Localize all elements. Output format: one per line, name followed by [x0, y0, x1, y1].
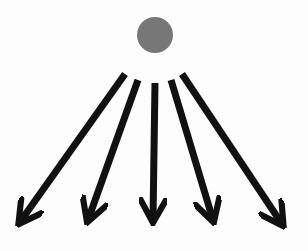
arrow-1 [20, 74, 125, 222]
diagram [0, 0, 308, 251]
arrows-group [20, 74, 282, 224]
arrow-5 [182, 74, 282, 224]
light-source-circle [137, 17, 173, 53]
arrow-3 [153, 83, 155, 220]
ray-diagram [0, 0, 308, 251]
arrow-2 [88, 80, 138, 220]
arrow-4 [171, 80, 213, 220]
